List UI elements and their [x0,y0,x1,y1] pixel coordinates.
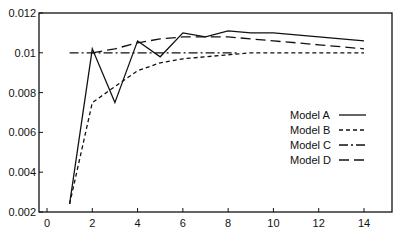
plot-frame [39,13,392,212]
x-tick-label: 0 [44,217,50,229]
series-model-d [92,37,364,53]
legend-label: Model B [290,124,330,136]
x-tick-label: 10 [267,217,279,229]
x-tick-label: 14 [358,217,370,229]
x-tick-label: 12 [313,217,325,229]
x-tick-label: 8 [225,217,231,229]
legend-label: Model A [290,109,330,121]
y-axis: 0.0020.0040.0060.0080.010.012 [8,7,43,218]
y-tick-label: 0.01 [15,47,36,59]
legend-item: Model A [290,109,366,121]
line-chart: 0.0020.0040.0060.0080.010.012 0246810121… [0,0,400,235]
legend-label: Model D [290,154,331,166]
x-tick-label: 4 [135,217,141,229]
plot-border [39,13,392,212]
legend-item: Model B [290,124,366,136]
x-tick-label: 6 [180,217,186,229]
y-tick-label: 0.002 [8,206,36,218]
x-axis: 02468101214 [44,208,370,229]
y-tick-label: 0.006 [8,126,36,138]
y-tick-label: 0.008 [8,87,36,99]
y-tick-label: 0.012 [8,7,36,19]
x-tick-label: 2 [89,217,95,229]
y-tick-label: 0.004 [8,166,36,178]
legend-label: Model C [290,139,331,151]
legend-item: Model D [290,154,366,166]
chart-canvas: 0.0020.0040.0060.0080.010.012 0246810121… [0,0,400,235]
legend: Model AModel BModel CModel D [290,109,366,166]
legend-item: Model C [290,139,366,151]
